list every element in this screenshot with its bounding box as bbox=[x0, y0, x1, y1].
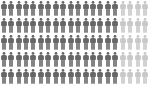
person-grid bbox=[0, 1, 149, 86]
person-icon-highlighted bbox=[67, 69, 74, 86]
person-icon-highlighted bbox=[67, 1, 74, 18]
person-icon-highlighted bbox=[30, 52, 37, 69]
person-icon-highlighted bbox=[30, 35, 37, 52]
person-icon-highlighted bbox=[97, 1, 104, 18]
person-icon-highlighted bbox=[0, 69, 7, 86]
person-icon-highlighted bbox=[112, 18, 119, 35]
person-icon-highlighted bbox=[60, 18, 67, 35]
person-icon-other bbox=[141, 1, 148, 18]
person-icon-highlighted bbox=[37, 52, 44, 69]
person-icon-highlighted bbox=[82, 52, 89, 69]
person-icon-highlighted bbox=[15, 18, 22, 35]
person-icon-highlighted bbox=[52, 69, 59, 86]
person-icon-highlighted bbox=[22, 35, 29, 52]
person-icon-highlighted bbox=[74, 18, 81, 35]
person-icon-highlighted bbox=[0, 18, 7, 35]
person-icon-other bbox=[141, 18, 148, 35]
person-icon-other bbox=[119, 52, 126, 69]
person-icon-other bbox=[126, 35, 133, 52]
person-icon-other bbox=[134, 69, 141, 86]
person-icon-highlighted bbox=[37, 69, 44, 86]
person-icon-other bbox=[134, 18, 141, 35]
person-icon-highlighted bbox=[74, 1, 81, 18]
person-icon-highlighted bbox=[0, 1, 7, 18]
person-icon-highlighted bbox=[67, 35, 74, 52]
person-icon-other bbox=[126, 18, 133, 35]
person-icon-highlighted bbox=[89, 1, 96, 18]
person-icon-other bbox=[119, 69, 126, 86]
person-icon-highlighted bbox=[30, 18, 37, 35]
person-icon-highlighted bbox=[112, 1, 119, 18]
person-icon-highlighted bbox=[97, 52, 104, 69]
person-icon-highlighted bbox=[0, 52, 7, 69]
person-icon-highlighted bbox=[15, 52, 22, 69]
person-icon-highlighted bbox=[82, 35, 89, 52]
person-icon-highlighted bbox=[22, 69, 29, 86]
person-icon-highlighted bbox=[60, 52, 67, 69]
person-icon-highlighted bbox=[7, 52, 14, 69]
person-icon-highlighted bbox=[74, 52, 81, 69]
person-icon-highlighted bbox=[7, 1, 14, 18]
person-icon-highlighted bbox=[15, 69, 22, 86]
person-icon-other bbox=[141, 35, 148, 52]
person-icon-highlighted bbox=[37, 35, 44, 52]
person-icon-highlighted bbox=[67, 52, 74, 69]
person-icon-highlighted bbox=[89, 69, 96, 86]
person-icon-other bbox=[134, 1, 141, 18]
person-icon-highlighted bbox=[7, 69, 14, 86]
person-icon-other bbox=[134, 35, 141, 52]
person-icon-highlighted bbox=[89, 18, 96, 35]
pictograph-chart bbox=[0, 0, 149, 91]
person-icon-highlighted bbox=[7, 35, 14, 52]
person-icon-other bbox=[119, 18, 126, 35]
person-icon-other bbox=[126, 52, 133, 69]
person-icon-highlighted bbox=[45, 18, 52, 35]
person-icon-highlighted bbox=[52, 1, 59, 18]
person-icon-highlighted bbox=[45, 69, 52, 86]
person-icon-highlighted bbox=[30, 1, 37, 18]
person-icon-highlighted bbox=[37, 1, 44, 18]
person-icon-other bbox=[134, 52, 141, 69]
person-icon-highlighted bbox=[97, 69, 104, 86]
person-icon-highlighted bbox=[97, 35, 104, 52]
person-icon-other bbox=[126, 1, 133, 18]
person-icon-other bbox=[126, 69, 133, 86]
person-icon-other bbox=[141, 69, 148, 86]
person-icon-highlighted bbox=[112, 35, 119, 52]
person-icon-highlighted bbox=[104, 69, 111, 86]
person-icon-highlighted bbox=[104, 1, 111, 18]
person-icon-highlighted bbox=[82, 1, 89, 18]
person-icon-highlighted bbox=[0, 35, 7, 52]
person-icon-other bbox=[119, 35, 126, 52]
person-icon-highlighted bbox=[52, 52, 59, 69]
person-icon-highlighted bbox=[52, 35, 59, 52]
person-icon-highlighted bbox=[89, 52, 96, 69]
person-icon-highlighted bbox=[60, 1, 67, 18]
person-icon-highlighted bbox=[15, 35, 22, 52]
person-icon-highlighted bbox=[89, 35, 96, 52]
person-icon-highlighted bbox=[60, 35, 67, 52]
person-icon-highlighted bbox=[22, 18, 29, 35]
person-icon-highlighted bbox=[15, 1, 22, 18]
person-icon-highlighted bbox=[37, 18, 44, 35]
person-icon-highlighted bbox=[52, 18, 59, 35]
person-icon-highlighted bbox=[104, 35, 111, 52]
person-icon-highlighted bbox=[45, 35, 52, 52]
person-icon-highlighted bbox=[74, 35, 81, 52]
person-icon-highlighted bbox=[45, 52, 52, 69]
person-icon-other bbox=[141, 52, 148, 69]
person-icon-highlighted bbox=[112, 52, 119, 69]
person-icon-other bbox=[119, 1, 126, 18]
person-icon-highlighted bbox=[112, 69, 119, 86]
person-icon-highlighted bbox=[82, 69, 89, 86]
person-icon-highlighted bbox=[30, 69, 37, 86]
person-icon-highlighted bbox=[22, 52, 29, 69]
person-icon-highlighted bbox=[74, 69, 81, 86]
person-icon-highlighted bbox=[104, 18, 111, 35]
person-icon-highlighted bbox=[67, 18, 74, 35]
person-icon-highlighted bbox=[45, 1, 52, 18]
person-icon-highlighted bbox=[104, 52, 111, 69]
person-icon-highlighted bbox=[82, 18, 89, 35]
person-icon-highlighted bbox=[60, 69, 67, 86]
person-icon-highlighted bbox=[97, 18, 104, 35]
